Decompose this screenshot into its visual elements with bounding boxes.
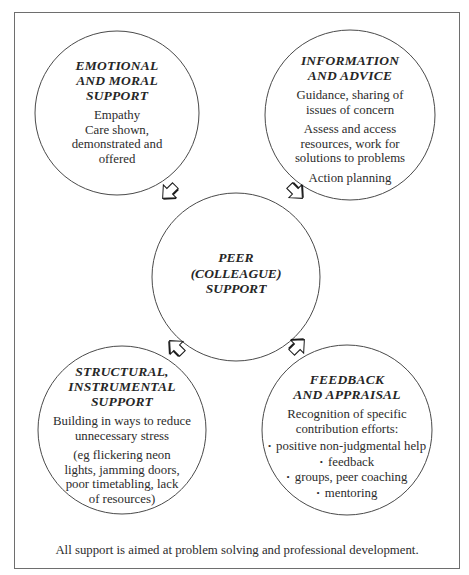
title-line: EMOTIONAL bbox=[76, 58, 159, 73]
arrow-structural-to-center-icon bbox=[162, 334, 189, 361]
structural-support-title: STRUCTURAL, INSTRUMENTAL SUPPORT bbox=[68, 364, 175, 409]
title-line: AND MORAL bbox=[76, 73, 159, 88]
title-line: SUPPORT bbox=[76, 88, 159, 103]
body-line: poor timetabling, lack bbox=[66, 477, 179, 492]
title-line: SUPPORT bbox=[191, 281, 282, 297]
body-line: Empathy bbox=[94, 108, 140, 123]
bullet-item: mentoring bbox=[317, 486, 378, 502]
title-line: FEEDBACK bbox=[293, 372, 401, 387]
body-line: offered bbox=[99, 152, 136, 167]
title-line: STRUCTURAL, bbox=[68, 364, 175, 379]
structural-support-node: STRUCTURAL, INSTRUMENTAL SUPPORT Buildin… bbox=[38, 364, 206, 506]
body-line: contribution efforts: bbox=[296, 422, 398, 437]
emotional-support-node: EMOTIONAL AND MORAL SUPPORT Empathy Care… bbox=[37, 58, 197, 166]
bullet-item: feedback bbox=[320, 455, 374, 471]
bullet-item: groups, peer coaching bbox=[287, 470, 408, 486]
title-line: (COLLEAGUE) bbox=[191, 266, 282, 282]
feedback-appraisal-title: FEEDBACK AND APPRAISAL bbox=[293, 372, 401, 402]
body-line: of resources) bbox=[89, 492, 155, 507]
title-line: INSTRUMENTAL bbox=[68, 379, 175, 394]
body-line: issues of concern bbox=[306, 103, 394, 118]
title-line: PEER bbox=[191, 250, 282, 266]
emotional-support-title: EMOTIONAL AND MORAL SUPPORT bbox=[76, 58, 159, 103]
footer-caption: All support is aimed at problem solving … bbox=[14, 543, 460, 558]
body-line: lights, jamming doors, bbox=[64, 463, 179, 478]
information-advice-node: INFORMATION AND ADVICE Guidance, sharing… bbox=[265, 53, 435, 185]
body-line: Guidance, sharing of bbox=[297, 88, 404, 103]
body-line: demonstrated and bbox=[72, 137, 163, 152]
feedback-appraisal-node: FEEDBACK AND APPRAISAL Recognition of sp… bbox=[262, 372, 432, 501]
body-line: unnecessary stress bbox=[75, 429, 169, 444]
peer-support-node: PEER (COLLEAGUE) SUPPORT bbox=[156, 250, 316, 297]
body-line: (eg flickering neon bbox=[73, 448, 170, 463]
title-line: AND APPRAISAL bbox=[293, 387, 401, 402]
bullet-item: positive non-judgmental help bbox=[268, 439, 426, 455]
title-line: AND ADVICE bbox=[301, 68, 399, 83]
information-advice-title: INFORMATION AND ADVICE bbox=[301, 53, 399, 83]
peer-support-title: PEER (COLLEAGUE) SUPPORT bbox=[191, 250, 282, 297]
body-line: Care shown, bbox=[85, 123, 149, 138]
body-line: Recognition of specific bbox=[287, 407, 406, 422]
body-line: resources, work for bbox=[300, 137, 399, 152]
title-line: SUPPORT bbox=[68, 394, 175, 409]
title-line: INFORMATION bbox=[301, 53, 399, 68]
body-line: solutions to problems bbox=[295, 151, 405, 166]
body-line: Building in ways to reduce bbox=[53, 414, 191, 429]
body-line: Action planning bbox=[309, 171, 392, 186]
body-line: Assess and access bbox=[304, 122, 396, 137]
